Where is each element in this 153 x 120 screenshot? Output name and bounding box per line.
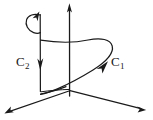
label-c2-base: C	[16, 54, 25, 69]
helix-origin-connector	[41, 89, 70, 91]
right-axis-arrowhead-icon	[137, 107, 146, 113]
figure-canvas: C2 C1	[0, 0, 153, 120]
top-hook-arrowhead-icon	[33, 12, 40, 22]
label-c1-subscript: 1	[120, 61, 125, 71]
right-axis-shaft	[70, 91, 141, 109]
left-axis-shaft	[9, 91, 69, 112]
label-c2-subscript: 2	[25, 61, 30, 71]
label-c1-base: C	[111, 54, 120, 69]
label-c1: C1	[111, 55, 125, 71]
label-c2: C2	[16, 55, 30, 71]
